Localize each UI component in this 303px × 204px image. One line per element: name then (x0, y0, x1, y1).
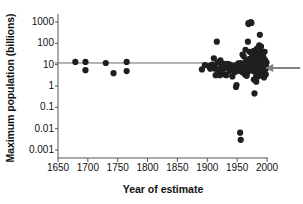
data-point (124, 68, 130, 74)
data-point (263, 59, 269, 65)
data-point (207, 66, 213, 72)
data-point (72, 59, 78, 65)
data-point (263, 71, 269, 77)
data-point (214, 39, 220, 45)
data-points-group (72, 19, 269, 143)
data-point (256, 68, 262, 74)
data-point (248, 20, 254, 26)
data-point (110, 70, 116, 76)
data-point (233, 68, 239, 74)
data-point (82, 67, 88, 73)
data-point (245, 39, 251, 45)
data-point (253, 79, 259, 85)
data-point (258, 44, 264, 50)
scatter-plot-canvas (0, 0, 303, 204)
data-point (124, 59, 130, 65)
annotation-arrow-group (265, 64, 300, 72)
data-point (251, 90, 257, 96)
data-point (103, 60, 109, 66)
chart-figure: Maximum population (billions) 1000100101… (0, 0, 303, 204)
data-point (247, 59, 253, 65)
data-point (82, 59, 88, 65)
data-point (238, 137, 244, 143)
data-point (233, 82, 239, 88)
data-point (260, 53, 266, 59)
data-point (237, 130, 243, 136)
data-point (257, 32, 263, 38)
data-point (235, 60, 241, 66)
data-point (226, 68, 232, 74)
data-point (244, 73, 250, 79)
